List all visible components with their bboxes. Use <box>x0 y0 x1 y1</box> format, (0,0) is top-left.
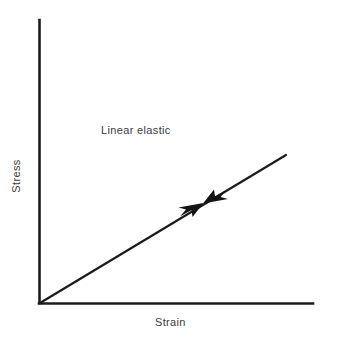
stress-strain-figure: Linear elastic Strain Stress <box>0 0 337 341</box>
y-axis-label: Stress <box>10 159 22 192</box>
x-axis-label: Strain <box>155 316 186 328</box>
unloading-arrow-icon <box>203 190 228 204</box>
loading-arrow-icon <box>179 203 204 217</box>
linear-elastic-line <box>40 155 286 303</box>
plot-canvas <box>0 0 337 341</box>
linear-elastic-annotation: Linear elastic <box>101 124 171 136</box>
